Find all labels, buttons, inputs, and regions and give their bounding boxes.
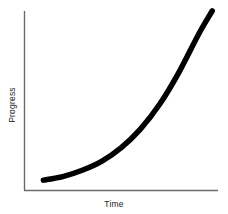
x-axis-label: Time [0, 200, 228, 209]
chart-canvas [0, 0, 228, 214]
chart-background [0, 0, 228, 214]
exponential-growth-chart: Time Progress [0, 0, 228, 214]
y-axis-label: Progress [8, 87, 17, 123]
